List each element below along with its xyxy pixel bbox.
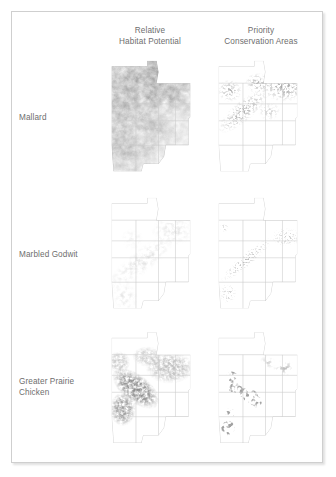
map-marbled-godwit-priority-conservation-areas[interactable]: [211, 192, 305, 317]
map-mallard-relative-habitat-potential[interactable]: [104, 55, 198, 180]
row-label-greater-prairie-chicken: Greater Prairie Chicken: [19, 377, 99, 398]
map-mallard-priority-conservation-areas[interactable]: [211, 55, 305, 180]
column-header-relative-habitat-potential: Relative Habitat Potential: [104, 26, 196, 47]
map-marbled-godwit-relative-habitat-potential[interactable]: [104, 192, 198, 317]
figure-root: Relative Habitat Potential Priority Cons…: [0, 0, 336, 477]
figure-content: Relative Habitat Potential Priority Cons…: [0, 0, 336, 477]
row-label-mallard: Mallard: [19, 113, 99, 124]
row-label-marbled-godwit: Marbled Godwit: [19, 250, 99, 261]
map-greater-prairie-chicken-priority-conservation-areas[interactable]: [211, 324, 305, 454]
column-header-priority-conservation-areas: Priority Conservation Areas: [211, 26, 311, 47]
map-greater-prairie-chicken-relative-habitat-potential[interactable]: [104, 324, 198, 454]
